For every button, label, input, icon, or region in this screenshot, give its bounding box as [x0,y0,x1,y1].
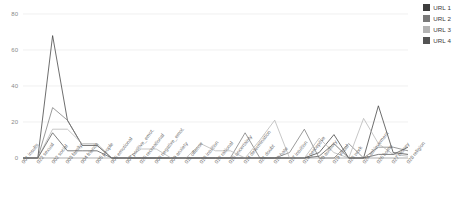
legend-item[interactable]: URL 4 [423,36,451,45]
legend-item[interactable]: URL 2 [423,14,451,23]
chart-legend: URL 1 URL 2 URL 3 URL 4 [423,3,451,45]
y-tick-label: 20 [2,119,18,125]
series-line-url-3 [23,118,408,158]
legend-swatch-url-1 [423,4,430,11]
series-lines [23,36,408,158]
gridlines [23,14,408,158]
legend-label-url-1: URL 1 [433,3,451,12]
legend-item[interactable]: URL 1 [423,3,451,12]
y-tick-label: 80 [2,11,18,17]
legend-swatch-url-3 [423,26,430,33]
y-tick-label: 40 [2,83,18,89]
y-tick-label: 0 [2,155,18,161]
legend-label-url-2: URL 2 [433,14,451,23]
legend-label-url-4: URL 4 [433,36,451,45]
legend-swatch-url-2 [423,15,430,22]
line-chart: 806040200 001 insults022 sexual002 socia… [0,0,453,211]
plot-area [0,0,453,211]
legend-item[interactable]: URL 3 [423,25,451,34]
y-tick-label: 60 [2,47,18,53]
series-line-url-1 [23,36,408,158]
legend-label-url-3: URL 3 [433,25,451,34]
legend-swatch-url-4 [423,37,430,44]
